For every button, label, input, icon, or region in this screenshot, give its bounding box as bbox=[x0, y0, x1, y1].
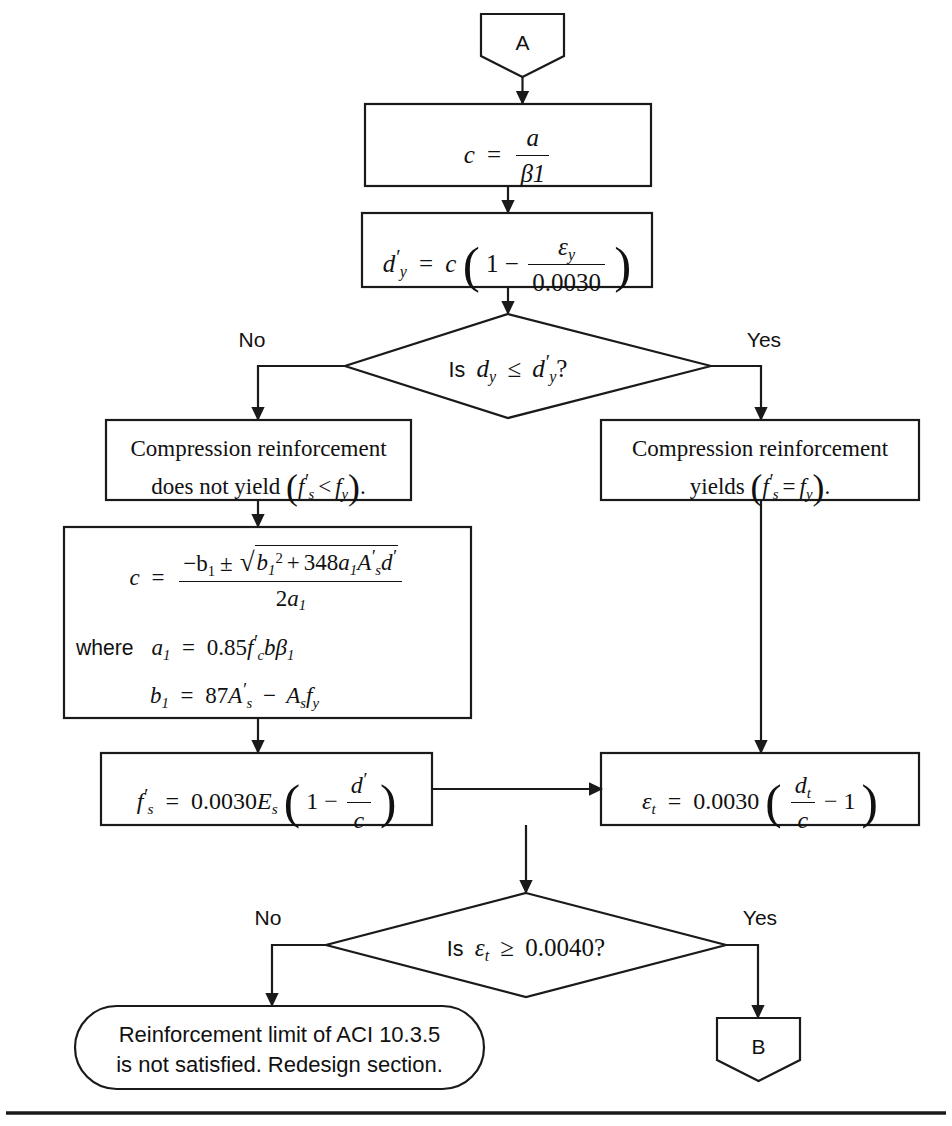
et-coef: 0.0030 bbox=[693, 788, 759, 814]
quad-rad-a-sub: 1 bbox=[350, 562, 357, 578]
node-decision-epsilon-question: Is εt ≥ 0.0040? bbox=[416, 932, 636, 964]
b1-minus: − bbox=[263, 683, 276, 708]
quad-denominator: 2a1 bbox=[179, 582, 402, 613]
decision-dy-op: ≤ bbox=[507, 355, 521, 382]
dy-fraction: εy 0.0030 bbox=[528, 231, 605, 299]
et-inner-tail: − 1 bbox=[824, 788, 856, 814]
not-yield-rhs: f bbox=[335, 474, 341, 499]
yields-paren-open: ( bbox=[751, 464, 763, 512]
node-yields-text: Compression reinforcement yields (f′s=fy… bbox=[601, 434, 919, 513]
decision-dy-prefix: Is bbox=[449, 358, 466, 382]
yields-lhs-sub: s bbox=[773, 486, 779, 502]
et-fraction: dt c bbox=[791, 770, 815, 835]
quad-rad-plus: + bbox=[287, 550, 300, 575]
yields-paren-close: ) bbox=[813, 464, 825, 512]
yields-line2: yields (f′s=fy). bbox=[601, 465, 919, 513]
et-denominator: c bbox=[791, 803, 815, 836]
b1-A-sub: s bbox=[246, 695, 252, 711]
not-yield-line1: Compression reinforcement bbox=[106, 434, 411, 465]
quad-den-sub: 1 bbox=[299, 597, 306, 613]
b1-f-sub: y bbox=[312, 695, 319, 711]
edge-decision-epsilon-yes bbox=[726, 945, 758, 1017]
et-lhs: ε bbox=[642, 788, 651, 814]
a1-coef: 0.85 bbox=[207, 635, 247, 660]
node-decision-dy-question: Is dy ≤ d′y? bbox=[398, 353, 618, 385]
decision-epsilon-no-label: No bbox=[222, 905, 314, 932]
quad-rad-d: d bbox=[381, 550, 393, 575]
dy-lhs: d bbox=[383, 250, 396, 277]
node-epsilon-t-equation: εt = 0.0030 ( dt c − 1 ) bbox=[601, 771, 919, 836]
a1-beta-sub: 1 bbox=[287, 647, 294, 663]
not-yield-paren-close: ) bbox=[348, 464, 360, 512]
decision-dy-left-sub: y bbox=[489, 368, 496, 385]
quad-rad-a: a bbox=[338, 550, 350, 575]
b1-A2: A bbox=[286, 683, 300, 708]
quad-fraction: −b1±√b12+348a1A′sd′ 2a1 bbox=[179, 545, 402, 613]
node-quadratic-b1: b1 = 87A′s − Asfy bbox=[150, 681, 530, 710]
decision-dy-left: d bbox=[477, 355, 490, 382]
yields-op: = bbox=[783, 474, 796, 499]
b1-A2-sub: s bbox=[300, 695, 306, 711]
decision-epsilon-value: 0.0040 bbox=[525, 934, 594, 961]
not-yield-lhs-sub: s bbox=[308, 486, 314, 502]
dy-denominator: 0.0030 bbox=[528, 265, 605, 299]
decision-epsilon-op: ≥ bbox=[500, 934, 514, 961]
quad-num-lead: −b bbox=[183, 551, 207, 576]
dy-numerator-sub: y bbox=[568, 246, 575, 263]
b1-A: A bbox=[228, 683, 242, 708]
node-dy-prime-equation: d′y = c ( 1 − εy 0.0030 ) bbox=[362, 232, 652, 300]
a1-lhs-sub: 1 bbox=[163, 647, 170, 663]
et-numerator-group: dt bbox=[791, 770, 815, 803]
fs-lhs-sub: s bbox=[148, 800, 154, 817]
not-yield-line2: does not yield (f′s<fy). bbox=[106, 465, 411, 513]
c-lhs: c bbox=[464, 141, 475, 168]
quad-rad-coef: 348 bbox=[304, 550, 339, 575]
quad-rad-A-sub: s bbox=[375, 562, 381, 578]
c-denominator: β1 bbox=[516, 156, 549, 190]
fs-numerator: d bbox=[351, 772, 363, 798]
dy-inner-lead: 1 − bbox=[486, 250, 519, 277]
a1-equals: = bbox=[182, 635, 195, 660]
decision-dy-yes-label: Yes bbox=[718, 327, 810, 354]
fs-denominator: c bbox=[347, 803, 371, 836]
dy-coef: c bbox=[445, 250, 456, 277]
fs-coef: 0.0030 bbox=[191, 788, 257, 814]
dy-lhs-sub: y bbox=[400, 263, 407, 280]
dy-paren-close: ) bbox=[614, 232, 631, 298]
a1-lhs: a bbox=[151, 635, 163, 660]
fs-modulus: E bbox=[257, 788, 272, 814]
node-quadratic-equation: c = −b1±√b12+348a1A′sd′ 2a1 bbox=[64, 546, 471, 614]
radical-sign-icon: √ bbox=[240, 547, 255, 577]
et-numerator: d bbox=[795, 772, 807, 798]
et-lhs-sub: t bbox=[652, 800, 656, 817]
decision-epsilon-var-sub: t bbox=[485, 947, 489, 964]
quad-den-var: a bbox=[287, 586, 299, 611]
b1-equals: = bbox=[181, 683, 194, 708]
node-not-yield-text: Compression reinforcement does not yield… bbox=[106, 434, 411, 513]
connector-b-label: B bbox=[717, 1034, 800, 1061]
a1-f-sub: c bbox=[257, 647, 264, 663]
b1-coef: 87 bbox=[205, 683, 228, 708]
fs-inner-lead: 1 − bbox=[306, 788, 338, 814]
decision-epsilon-yes-label: Yes bbox=[714, 905, 806, 932]
connector-a-label: A bbox=[481, 30, 564, 57]
decision-dy-right: d bbox=[532, 355, 545, 382]
node-redesign-text: Reinforcement limit of ACI 10.3.5 is not… bbox=[88, 1020, 471, 1080]
redesign-line1: Reinforcement limit of ACI 10.3.5 bbox=[88, 1020, 471, 1050]
a1-b: b bbox=[264, 635, 276, 660]
edge-decision-epsilon-no bbox=[272, 945, 326, 1005]
quad-pm: ± bbox=[220, 551, 233, 576]
not-yield-paren-open: ( bbox=[286, 464, 298, 512]
quad-radical: √b12+348a1A′sd′ bbox=[238, 545, 399, 580]
fs-paren-close: ) bbox=[380, 771, 396, 834]
quad-rad-b: b bbox=[257, 550, 269, 575]
dy-paren-open: ( bbox=[463, 232, 480, 298]
decision-dy-suffix: ? bbox=[556, 355, 567, 382]
fs-equals: = bbox=[166, 788, 180, 814]
decision-epsilon-suffix: ? bbox=[594, 934, 605, 961]
yields-line1: Compression reinforcement bbox=[601, 434, 919, 465]
c-equals: = bbox=[487, 141, 501, 168]
yields-line2-pre: yields bbox=[690, 474, 745, 499]
dy-numerator-group: εy bbox=[528, 231, 605, 265]
edge-decision-dy-yes bbox=[711, 366, 761, 419]
